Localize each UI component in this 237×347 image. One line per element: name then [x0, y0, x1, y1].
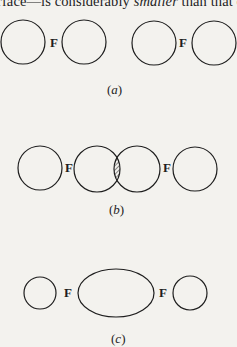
panel-b-circles: [18, 146, 217, 192]
circle-b1: [18, 146, 62, 190]
circle-b3: [114, 146, 160, 192]
merged-ellipse: [78, 269, 154, 317]
force-label: F: [179, 35, 187, 51]
circle-c1: [24, 277, 56, 309]
force-label: F: [64, 285, 72, 301]
caption-letter: b: [113, 202, 120, 217]
circle-a1: [1, 20, 45, 64]
circle-a3: [132, 21, 176, 65]
circle-b4: [173, 147, 217, 191]
caption-letter: c: [115, 331, 121, 346]
caption-b: (b): [109, 202, 124, 218]
force-label: F: [163, 160, 171, 176]
figure-diagram: [0, 0, 237, 347]
caption-a: (a): [107, 82, 122, 98]
force-label: F: [65, 160, 73, 176]
caption-c: (c): [111, 331, 125, 347]
force-label: F: [159, 285, 167, 301]
circle-a4: [192, 21, 236, 65]
panel-c-shapes: [24, 269, 207, 317]
caption-letter: a: [111, 82, 118, 97]
circle-b2: [74, 146, 120, 192]
panel-a-circles: [1, 20, 236, 65]
circle-a2: [62, 20, 106, 64]
circle-c2: [173, 276, 207, 310]
force-label: F: [50, 35, 58, 51]
